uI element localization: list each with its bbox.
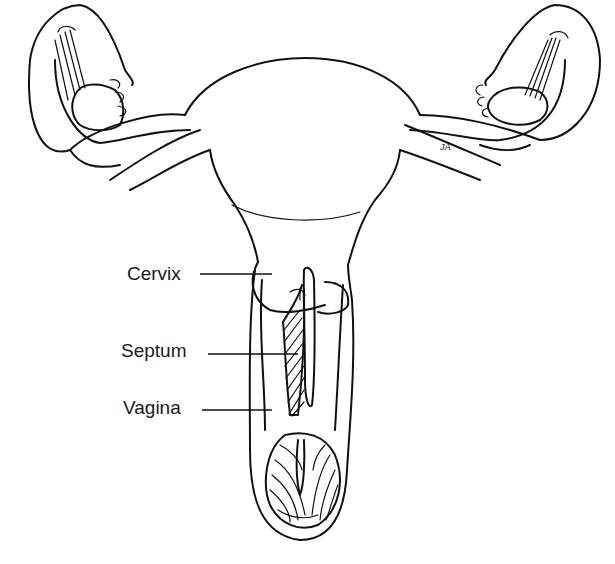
anatomy-diagram: JA Cervix Se [0,0,615,564]
left-ligament-upper [110,130,200,180]
vagina-label: Vagina [123,398,181,417]
right-ligament-lower [400,150,480,180]
left-tube-bottom [70,150,120,167]
left-ligament-lower [130,150,210,190]
uterus-illustration: JA [0,0,615,564]
vagina-left-inner-wall [261,280,265,430]
uterus-lower-contour [232,205,360,220]
septum-hatching [284,310,304,416]
septum-band-outer [304,268,315,407]
vagina-right-inner-wall [335,285,343,430]
right-ligament-upper [405,125,500,165]
uterus-right-side [348,150,400,265]
septum-label: Septum [121,341,186,360]
right-fimbriae [476,32,568,117]
left-ovary [72,85,123,131]
right-tube-inner [410,60,565,140]
right-tube-bottom [480,145,530,150]
cervix-label: Cervix [127,264,181,283]
introitus-septum-remnant [297,440,305,495]
right-ovary [488,87,548,124]
right-tube-outer [420,5,600,140]
artist-signature: JA [439,142,451,152]
uterus-fundus [185,58,420,115]
left-fimbriae [55,26,126,116]
